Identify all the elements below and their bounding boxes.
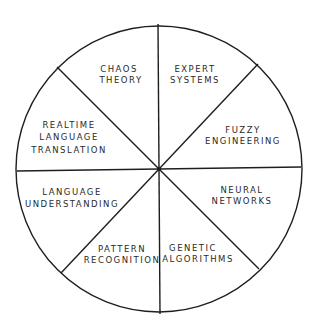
segment-label-line: TRANSLATION bbox=[31, 146, 107, 155]
segment-label-line: UNDERSTANDING bbox=[25, 200, 119, 209]
segment-label-line: THEORY bbox=[99, 76, 142, 85]
segment-label-line: LANGUAGE bbox=[42, 188, 102, 197]
segment-label-line: REALTIME bbox=[42, 121, 95, 130]
segment-label-line: RECOGNITION bbox=[84, 256, 161, 265]
segment-label-line: EXPERT bbox=[174, 65, 215, 74]
segment-label-line: SYSTEMS bbox=[170, 76, 220, 85]
segment-label-line: LANGUAGE bbox=[39, 133, 99, 142]
segment-label-line: CHAOS bbox=[100, 65, 138, 74]
segment-label-line: FUZZY bbox=[225, 126, 260, 135]
wheel-diagram bbox=[0, 0, 312, 329]
segment-label-line: PATTERN bbox=[98, 245, 146, 254]
center-dot bbox=[157, 167, 161, 171]
segment-label-line: ALGORITHMS bbox=[162, 255, 234, 264]
segment-label-line: NETWORKS bbox=[212, 197, 273, 206]
segment-label-line: ENGINEERING bbox=[205, 137, 281, 146]
segment-label-line: NEURAL bbox=[220, 186, 263, 195]
segment-label-line: GENETIC bbox=[169, 244, 217, 253]
